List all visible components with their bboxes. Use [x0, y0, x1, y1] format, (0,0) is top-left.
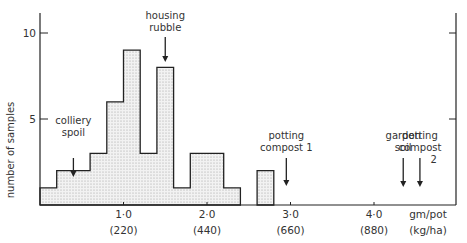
x-tick-sublabel: (220) [109, 224, 137, 236]
annotation-text: rubble [149, 22, 181, 33]
arrow-head-icon [162, 56, 168, 62]
x-tick-label: 2·0 [199, 208, 216, 220]
x-axis-unit-bottom: (kg/ha) [409, 224, 447, 236]
annotation: collieryspoil [55, 115, 91, 177]
x-tick-label: 1·0 [115, 208, 132, 220]
annotation-text: potting [268, 130, 304, 141]
annotation-text: compost [398, 142, 441, 153]
y-axis-ticks: 510 [23, 27, 456, 125]
x-axis-unit-top: gm/pot [409, 208, 447, 220]
y-tick-label: 10 [23, 27, 36, 39]
histogram-chart: 1·0(220)2·0(440)3·0(660)4·0(880) 510 col… [0, 0, 467, 243]
x-tick-sublabel: (880) [360, 224, 388, 236]
annotation: housingrubble [146, 10, 185, 62]
arrow-head-icon [400, 181, 406, 187]
arrow-head-icon [283, 180, 289, 186]
x-axis-ticks: 1·0(220)2·0(440)3·0(660)4·0(880) [109, 202, 388, 236]
y-axis-label: number of samples [5, 102, 16, 199]
annotation-text: 2 [431, 154, 437, 165]
x-tick-sublabel: (440) [193, 224, 221, 236]
x-tick-label: 3·0 [282, 208, 299, 220]
x-tick-label: 4·0 [366, 208, 383, 220]
x-tick-sublabel: (660) [276, 224, 304, 236]
histogram-bar-group [257, 171, 274, 205]
annotation-text: compost 1 [260, 142, 313, 153]
annotation-text: spoil [62, 127, 85, 138]
y-tick-label: 5 [29, 113, 36, 125]
annotation-text: potting [402, 130, 438, 141]
arrow-head-icon [417, 181, 423, 187]
annotation-text: housing [146, 10, 185, 21]
annotation: pottingcompost2 [398, 130, 441, 187]
annotation-text: colliery [55, 115, 91, 126]
